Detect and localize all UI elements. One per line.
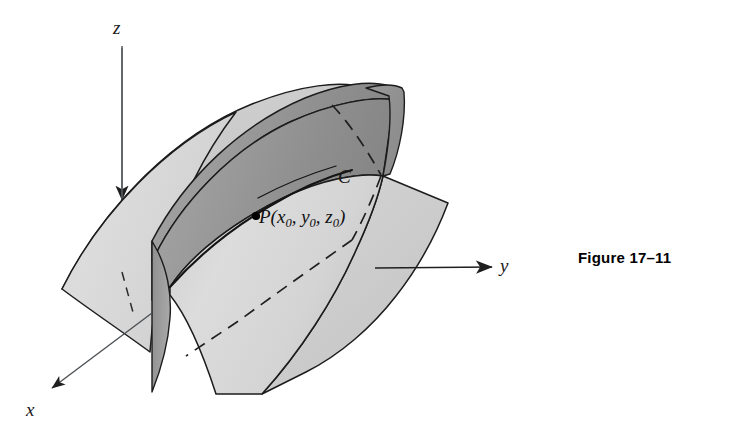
surface-diagram-svg [0, 0, 729, 442]
y-axis-visible[interactable] [375, 267, 492, 268]
point-label-P: P(x0, y0, z0) [259, 206, 345, 231]
point-var-z: z [325, 206, 332, 227]
x-axis-label: x [26, 399, 34, 421]
x-axis-visible[interactable] [52, 313, 152, 388]
curve-label-C: C [338, 166, 351, 188]
point-sep-2: , [316, 206, 326, 227]
point-label-prefix: P( [259, 206, 277, 227]
figure-caption: Figure 17–11 [578, 249, 671, 266]
point-label-suffix: ) [339, 206, 345, 227]
point-sep-1: , [292, 206, 302, 227]
z-axis-label: z [113, 17, 120, 39]
y-axis-label: y [500, 255, 508, 277]
point-var-y: y [301, 206, 309, 227]
figure-container: z y x C P(x0, y0, z0) Figure 17–11 [0, 0, 729, 442]
